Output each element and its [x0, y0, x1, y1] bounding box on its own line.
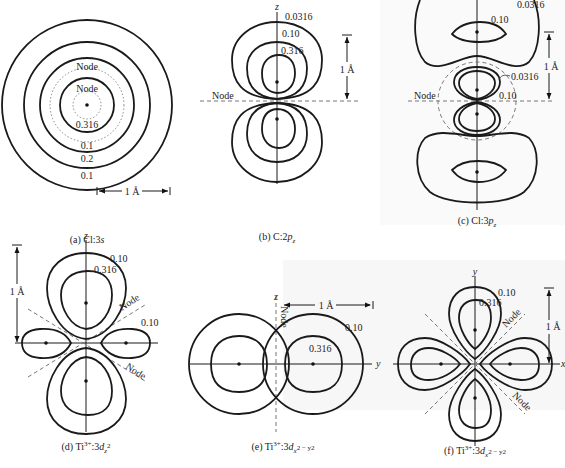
- lobe-center-dot: [439, 362, 443, 366]
- contour-label-0.316: 0.316: [281, 45, 304, 56]
- scale-label: 1 Å: [544, 61, 560, 72]
- scale-label: 1 Å: [125, 186, 141, 197]
- caption-c: (c) Cl:3pz: [458, 215, 497, 229]
- contour-label-0.10-inner: 0.10: [499, 90, 517, 101]
- lobe-center-dot: [508, 362, 512, 366]
- panel-e: z Node y 0.10 0.316 1 Å (e) Ti3+:3dx2 − …: [189, 291, 381, 455]
- panel-b: z Node 0.0316 0.10 0.316 1 Å (b) C:2pz: [200, 1, 358, 245]
- lobe-center-dot: [44, 341, 48, 345]
- contour-0.316-lower: [262, 109, 295, 148]
- panel-c: Node 0.0316 0.10 0.0316 0.10 1 Å (c) Cl:…: [408, 0, 559, 229]
- z-axis-label: z: [274, 1, 279, 12]
- contour-label-0.316: 0.316: [76, 119, 99, 130]
- node-label-lower: Node: [124, 360, 149, 381]
- node-label-inner: Node: [76, 83, 98, 94]
- lobe-center-dot: [475, 170, 479, 174]
- caption-b: (b) C:2pz: [259, 231, 296, 245]
- lobe-center-dot: [473, 328, 477, 332]
- contour-label-0.316: 0.316: [94, 264, 117, 275]
- orbital-contour-figure: Node Node 0.316 0.1 0.2 0.1 1 Å (a) Cl:3…: [0, 0, 565, 468]
- scale-bar: 1 Å: [10, 245, 26, 342]
- contour-label-0.10: 0.10: [110, 253, 128, 264]
- lobe-center-dot: [473, 396, 477, 400]
- z-axis-label: z: [273, 291, 278, 302]
- lobe-center-dot: [124, 341, 128, 345]
- contour-label-0.0316: 0.0316: [517, 0, 545, 10]
- contour-label-0.1-outer: 0.1: [81, 170, 94, 181]
- contour-label-0.10: 0.10: [491, 14, 509, 25]
- lobe-center-dot: [275, 117, 279, 121]
- lobe-center-dot: [237, 362, 241, 366]
- lobe-center-dot: [475, 88, 479, 92]
- node-label-upper: Node: [500, 306, 523, 329]
- lobe-center-dot: [311, 362, 315, 366]
- node-label: Node: [212, 90, 234, 101]
- scale-bar: 1 Å: [284, 300, 373, 311]
- node-label-outer: Node: [76, 61, 98, 72]
- scale-bar: 1 Å: [340, 35, 356, 99]
- contour-0.10-upper-outer: [452, 22, 506, 42]
- contour-0.316-upper: [262, 55, 295, 93]
- caption-d: (d) Ti3+:3dz2: [62, 440, 111, 455]
- contour-0.10-lower-outer: [452, 161, 506, 182]
- lobe-center-dot: [84, 301, 88, 305]
- lobe-center-dot: [84, 379, 88, 383]
- panel-a: Node Node 0.316 0.1 0.2 0.1 1 Å (a) Cl:3…: [2, 20, 172, 246]
- scale-bar: 1 Å: [544, 288, 561, 363]
- lobe-center-dot: [475, 112, 479, 116]
- contour-label-0.0316-inner: 0.0316: [511, 71, 539, 82]
- y-axis-label: y: [472, 266, 478, 277]
- scale-label: 1 Å: [10, 286, 26, 297]
- node-label: Node: [414, 90, 436, 101]
- contour-label-0.316: 0.316: [309, 343, 332, 354]
- contour-label-0.10: 0.10: [282, 28, 300, 39]
- node-label-lower: Node: [511, 390, 534, 413]
- scale-label: 1 Å: [546, 321, 562, 332]
- scale-bar: 1 Å: [544, 32, 560, 99]
- y-axis-label: y: [375, 358, 381, 369]
- contour-label-0.316: 0.316: [479, 297, 502, 308]
- z-axis-label: z: [83, 230, 88, 241]
- lobe-center-dot: [275, 80, 279, 84]
- panel-f: y x 0.10 0.316 Node Node 1 Å (: [393, 266, 565, 459]
- nucleus-dot: [85, 103, 89, 107]
- panel-d: z 0.10 0.316 0.10 Node Node 1 Å (d) Ti3+…: [10, 230, 159, 455]
- caption-e: (e) Ti3+:3dx2 − y2: [251, 440, 315, 455]
- contour-label-0.10-torus: 0.10: [141, 317, 159, 328]
- contour-label-0.1: 0.1: [81, 140, 94, 151]
- contour-label-0.10: 0.10: [345, 322, 363, 333]
- caption-f: (f) Ti3+:3dx2 − y2: [444, 444, 507, 459]
- x-axis-label: x: [560, 358, 565, 369]
- scale-label: 1 Å: [319, 300, 335, 311]
- contour-label-0.2: 0.2: [81, 153, 94, 164]
- contour-label-0.0316: 0.0316: [285, 11, 313, 22]
- scale-label: 1 Å: [340, 64, 356, 75]
- lobe-center-dot: [475, 30, 479, 34]
